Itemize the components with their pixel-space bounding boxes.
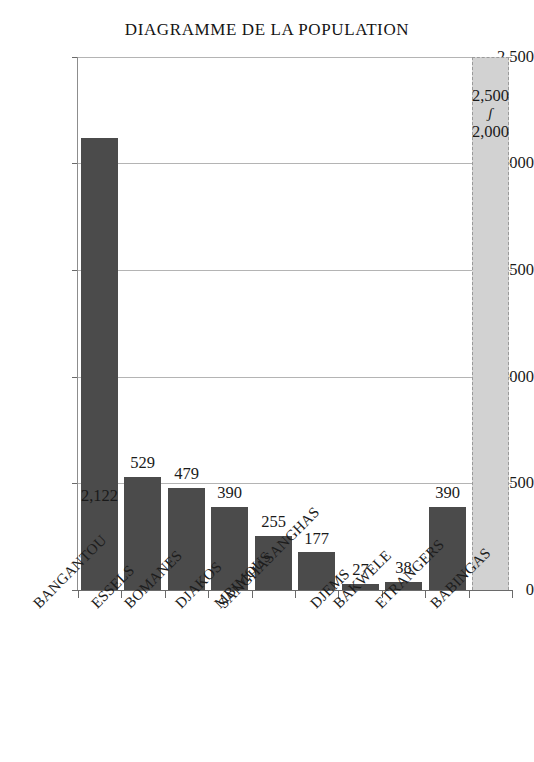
bar-bangantou[interactable]: [81, 138, 118, 590]
x-tick-mark-0: [78, 591, 79, 598]
x-tick-mark-10: [512, 591, 513, 598]
plot-area: 2,122 529 479 390 255 177 27 38 390 2,50…: [78, 57, 512, 590]
bar-value-bomanes: 479: [174, 464, 199, 484]
range-lower-value: 2,000: [472, 122, 509, 141]
gridline-1500: [78, 270, 512, 271]
bar-value-mbimous: 255: [261, 512, 286, 532]
x-tick-mark-9: [469, 591, 470, 598]
bar-chart: DIAGRAMME DE LA POPULATION 2,500 2,000 1…: [0, 0, 534, 762]
x-tick-mark-4: [252, 591, 253, 598]
gridline-1000: [78, 377, 512, 378]
gridline-2500: [78, 57, 512, 58]
bar-value-sanghasanghas: 177: [304, 529, 329, 549]
gridline-2000: [78, 163, 512, 164]
x-tick-mark-2: [165, 591, 166, 598]
bar-value-djakos: 390: [217, 483, 242, 503]
bar-value-bangantou: 2,122: [81, 486, 118, 506]
x-tick-mark-1: [121, 591, 122, 598]
bar-value-babingas-range: 2,500 ʃ 2,000: [472, 87, 509, 140]
x-tick-mark-8: [425, 591, 426, 598]
bar-value-essels: 529: [130, 453, 155, 473]
range-upper-value: 2,500: [472, 86, 509, 105]
x-tick-mark-5: [295, 591, 296, 598]
chart-title: DIAGRAMME DE LA POPULATION: [0, 20, 534, 40]
bar-value-etrangers: 390: [435, 483, 460, 503]
range-separator-squiggle: ʃ: [472, 104, 509, 123]
x-tick-mark-3: [208, 591, 209, 598]
